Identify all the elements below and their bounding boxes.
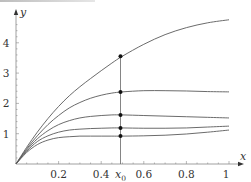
x-tick-label: 0.8 — [178, 168, 195, 180]
curve-4 — [16, 126, 229, 164]
x-tick-label: 0.4 — [93, 168, 110, 180]
y-tick-label: 2 — [3, 97, 10, 109]
x0-marker-point — [119, 126, 123, 130]
x-tick-label: 1 — [223, 168, 230, 180]
axes — [14, 9, 244, 166]
curve-3 — [16, 115, 229, 164]
x-axis-label: x — [240, 150, 247, 163]
x0-marker-point — [119, 90, 123, 94]
x0-label: x0 — [115, 168, 126, 182]
x0-marker-point — [119, 134, 123, 138]
y-tick-label: 4 — [3, 37, 10, 49]
x0-marker-point — [119, 54, 123, 58]
line-chart: 0.20.40.60.811234xyx0 — [0, 0, 251, 182]
x0-marker-point — [119, 113, 123, 117]
y-tick-label: 1 — [3, 128, 10, 140]
y-axis-arrow-icon — [14, 9, 18, 15]
y-tick-label: 3 — [3, 67, 10, 79]
x-tick-label: 0.2 — [50, 168, 67, 180]
tick-labels: 0.20.40.60.811234xyx0 — [3, 6, 247, 182]
x-tick-label: 0.6 — [135, 168, 152, 180]
y-axis-label: y — [19, 6, 27, 19]
curve-5 — [16, 130, 229, 164]
